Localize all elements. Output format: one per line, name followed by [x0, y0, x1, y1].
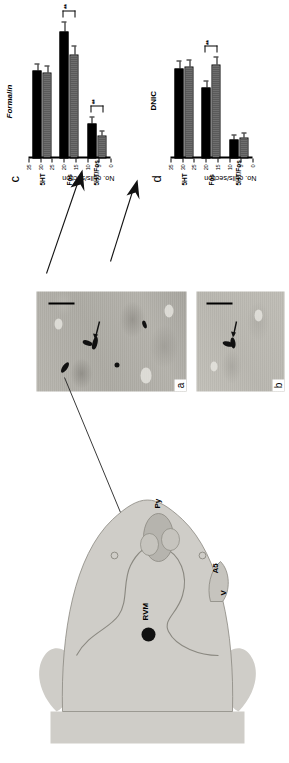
error-bar — [206, 81, 207, 87]
figure-stage: c Formalin No. cells/section 05101520253… — [0, 0, 289, 763]
axis-tick-label: 15 — [214, 164, 220, 170]
error-bar-cap — [34, 63, 39, 64]
stained-cell — [141, 320, 147, 329]
error-bar — [243, 133, 244, 137]
bar-Fos-Control — [201, 87, 210, 158]
axis-tick — [205, 158, 206, 162]
brain-label-v: V — [218, 590, 227, 595]
condition-label-formalin: Formalin — [4, 84, 13, 118]
error-bar — [64, 22, 65, 31]
significance-marker: ** — [204, 40, 211, 45]
error-bar-cap — [241, 132, 246, 133]
error-bar-cap — [61, 21, 66, 22]
brain-label-rvm: RVM — [140, 602, 149, 620]
plot-area-c: 5HTFos**5HT/Fos** — [28, 12, 110, 158]
bar-5HT-Fos-Control — [229, 139, 238, 158]
axis-tick-label: 35 — [25, 164, 31, 170]
micrograph-panel-b: b — [196, 291, 284, 391]
axis-tick — [217, 158, 218, 162]
axis-tick — [252, 158, 253, 162]
error-bar — [37, 64, 38, 71]
error-bar-cap — [89, 116, 94, 117]
axis-tick-label: 0 — [107, 164, 113, 167]
error-bar-cap — [186, 59, 191, 60]
error-bar-cap — [44, 65, 49, 66]
bar-5HT-Formalin — [42, 73, 51, 159]
axis-tick — [63, 158, 64, 162]
axis-tick — [40, 158, 41, 162]
error-bar-cap — [99, 130, 104, 131]
axis-tick-label: 10 — [226, 164, 232, 170]
axis-tick — [51, 158, 52, 162]
axis-tick — [170, 158, 171, 162]
brain-label-py: Py — [152, 498, 161, 508]
axis-tick — [110, 158, 111, 162]
bar-5HT-Control — [32, 70, 41, 158]
bar-5HT-Fos-Formalin — [97, 135, 106, 158]
significance-bracket — [204, 45, 217, 52]
brain-label-a5: A5 — [210, 563, 219, 573]
bar-5HT-Fos-Control — [87, 123, 96, 158]
annotation-arrow-formalin-5ht — [108, 175, 142, 263]
significance-marker: ** — [90, 99, 97, 104]
axis-tick-label: 20 — [202, 164, 208, 170]
error-bar — [74, 46, 75, 54]
axis-tick — [229, 158, 230, 162]
panel-label-b: b — [272, 379, 284, 391]
axis-tick-label: 35 — [167, 164, 173, 170]
chart-panel-c: c Formalin No. cells/section 05101520253… — [8, 8, 130, 188]
stained-cell — [59, 361, 70, 374]
significance-bracket — [62, 10, 75, 17]
error-bar — [179, 61, 180, 69]
plot-area-d: 5HTFos**5HT/Fos — [170, 12, 252, 158]
scale-bar-a — [48, 302, 74, 304]
axis-tick — [193, 158, 194, 162]
stained-cell — [114, 362, 119, 367]
axis-tick — [75, 158, 76, 162]
condition-label-dnic: DNIC — [148, 90, 157, 110]
chart-panel-d: d DNIC No. cells/section 05101520253035 … — [150, 8, 272, 188]
error-bar-cap — [213, 56, 218, 57]
error-bar — [216, 57, 217, 64]
significance-bracket — [90, 105, 103, 112]
axis-tick-label: 0 — [249, 164, 255, 167]
axis-tick-label: 30 — [179, 164, 185, 170]
bar-5HT-Fos-DNIC — [239, 137, 248, 158]
axis-tick — [182, 158, 183, 162]
arrow-marker — [90, 319, 104, 343]
bar-Fos-Control — [59, 31, 68, 158]
axis-tick-label: 25 — [190, 164, 196, 170]
bar-Fos-DNIC — [211, 64, 220, 158]
annotation-arrow-formalin-fos — [44, 165, 88, 275]
brainstem-diagram: RVM Py A5 V — [22, 421, 272, 751]
error-bar — [233, 135, 234, 139]
error-bar-cap — [231, 134, 236, 135]
error-bar-cap — [203, 80, 208, 81]
axis-tick — [28, 158, 29, 162]
error-bar-cap — [176, 60, 181, 61]
error-bar — [91, 117, 92, 123]
category-label-5HT-Fos: 5HT/Fos — [92, 160, 99, 185]
panel-label-c: c — [6, 176, 21, 183]
error-bar — [101, 131, 102, 135]
bar-Fos-Formalin — [69, 54, 78, 158]
scale-bar-b — [206, 302, 232, 304]
category-label-Fos: Fos — [207, 174, 214, 185]
arrow-marker — [228, 319, 240, 341]
axis-tick — [87, 158, 88, 162]
category-label-5HT-Fos: 5HT/Fos — [234, 160, 241, 185]
error-bar-cap — [71, 45, 76, 46]
significance-marker: ** — [62, 4, 69, 9]
error-bar — [47, 66, 48, 72]
bar-5HT-DNIC — [184, 66, 193, 158]
category-label-5HT: 5HT — [180, 173, 187, 185]
axis-tick-label: 30 — [37, 164, 43, 170]
bar-5HT-Control — [174, 68, 183, 158]
panel-label-d: d — [148, 175, 163, 182]
error-bar — [189, 60, 190, 67]
